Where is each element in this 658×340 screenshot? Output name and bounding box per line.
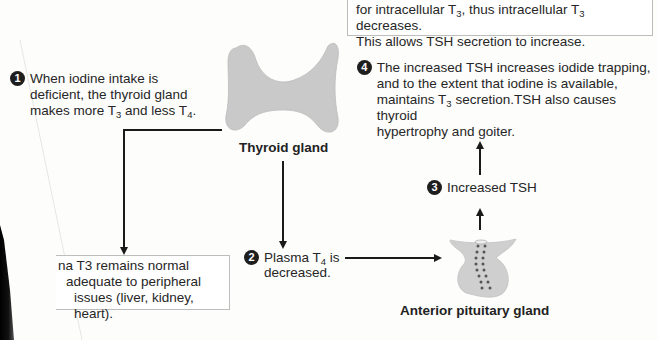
step-2-badge: 2: [244, 250, 259, 265]
step-2-text: 2 Plasma T4 is decreased.: [244, 250, 340, 280]
anterior-pituitary-illustration: [448, 236, 518, 300]
anterior-pituitary-label: Anterior pituitary gland: [400, 303, 549, 318]
plasma-t3-box: na T3 remains normal adequate to periphe…: [56, 255, 230, 310]
step-3-badge: 3: [427, 180, 442, 195]
step-3-text: 3 Increased TSH: [427, 180, 537, 196]
arrow-thyroid-to-t3-box: [124, 130, 222, 253]
increased-tsh-label: Increased TSH: [447, 180, 537, 196]
